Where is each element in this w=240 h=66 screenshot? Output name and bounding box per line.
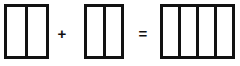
unit-cell bbox=[87, 7, 106, 56]
plus-operator-icon: + bbox=[54, 25, 70, 41]
unit-cell bbox=[28, 7, 46, 56]
unit-cell bbox=[217, 7, 232, 56]
diagram-canvas: + = bbox=[0, 0, 240, 66]
unit-bar-sum bbox=[160, 4, 235, 59]
unit-bar-addend-2 bbox=[84, 4, 124, 59]
unit-bar-addend-1 bbox=[4, 4, 49, 59]
unit-cell bbox=[7, 7, 28, 56]
unit-cell bbox=[163, 7, 181, 56]
equals-operator-icon: = bbox=[135, 25, 151, 41]
unit-cell bbox=[199, 7, 217, 56]
unit-cell bbox=[106, 7, 122, 56]
unit-cell bbox=[181, 7, 199, 56]
